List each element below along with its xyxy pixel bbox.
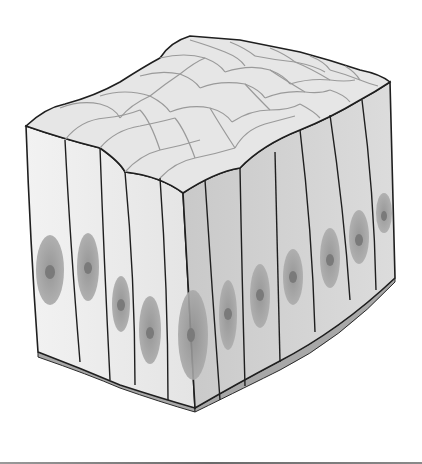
nucleus [112, 276, 130, 332]
nucleus [178, 290, 208, 380]
nucleus [283, 249, 303, 305]
nucleus [320, 228, 340, 288]
nucleus [219, 280, 237, 350]
nucleus [376, 193, 392, 233]
nucleus [139, 296, 161, 364]
nucleus [349, 210, 369, 264]
nucleus [36, 235, 64, 305]
epithelium-diagram [0, 0, 422, 464]
nucleus [250, 264, 270, 328]
nucleus [77, 233, 99, 301]
